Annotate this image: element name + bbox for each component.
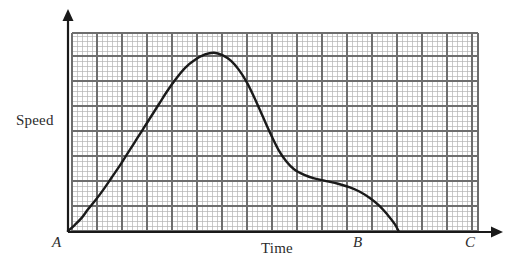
speed-time-graph-figure: Speed Time A B C [0,0,513,274]
axis-point-label-c: C [465,234,475,251]
graph-canvas [0,0,513,274]
axis-point-label-b: B [353,234,362,251]
axis-point-label-a: A [52,234,61,251]
x-axis-arrow-icon [491,227,503,238]
y-axis-title: Speed [16,112,54,129]
y-axis-arrow-icon [63,9,74,21]
x-axis-title: Time [261,240,293,257]
